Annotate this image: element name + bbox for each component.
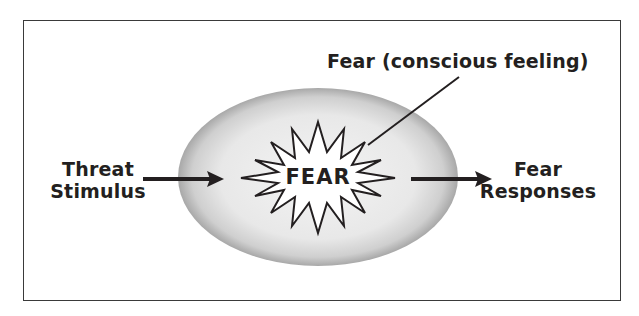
threat-stimulus-label: Threat Stimulus (48, 158, 148, 202)
fear-responses-line2: Responses (478, 180, 598, 202)
fear-responses-line1: Fear (478, 158, 598, 180)
fear-core-label: FEAR (278, 166, 358, 188)
fear-responses-label: Fear Responses (478, 158, 598, 202)
threat-stimulus-line2: Stimulus (48, 180, 148, 202)
threat-stimulus-line1: Threat (48, 158, 148, 180)
conscious-feeling-label: Fear (conscious feeling) (327, 50, 589, 72)
